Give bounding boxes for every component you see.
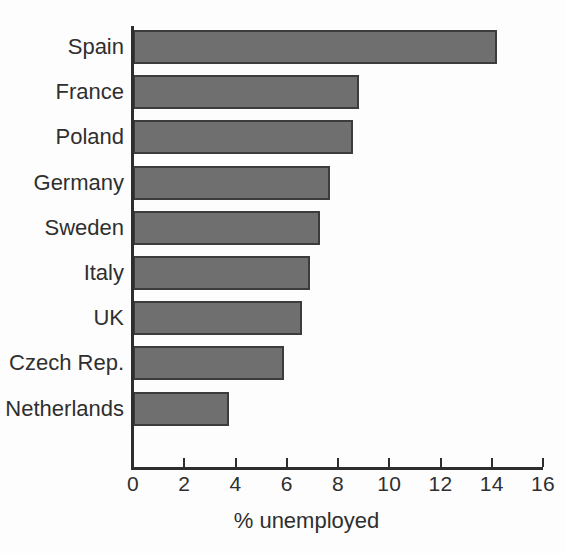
category-label: Czech Rep. xyxy=(0,348,124,378)
bar-row: Poland xyxy=(0,120,565,154)
bar-row: UK xyxy=(0,301,565,335)
x-tick-label: 12 xyxy=(421,472,461,496)
x-tick-label: 0 xyxy=(113,472,153,496)
x-tick xyxy=(491,458,493,467)
category-label: Italy xyxy=(0,258,124,288)
x-tick-label: 14 xyxy=(472,472,512,496)
bar xyxy=(133,301,302,335)
x-tick xyxy=(286,458,288,467)
x-tick xyxy=(542,458,544,467)
x-tick-label: 6 xyxy=(267,472,307,496)
x-tick xyxy=(440,458,442,467)
bar-row: Spain xyxy=(0,30,565,64)
x-axis-line xyxy=(131,467,543,470)
bar-row: Czech Rep. xyxy=(0,346,565,380)
y-axis-line xyxy=(131,26,134,470)
x-tick xyxy=(337,458,339,467)
bar xyxy=(133,256,310,290)
category-label: UK xyxy=(0,303,124,333)
x-tick-label: 8 xyxy=(318,472,358,496)
bar-chart: SpainFrancePolandGermanySwedenItalyUKCze… xyxy=(0,0,565,553)
category-label: Germany xyxy=(0,168,124,198)
bar-row: Italy xyxy=(0,256,565,290)
bar xyxy=(133,30,497,64)
bar xyxy=(133,211,320,245)
bar-row: Sweden xyxy=(0,211,565,245)
category-label: Netherlands xyxy=(0,394,124,424)
category-label: Poland xyxy=(0,122,124,152)
x-tick xyxy=(388,458,390,467)
bar xyxy=(133,392,229,426)
bars-layer: SpainFrancePolandGermanySwedenItalyUKCze… xyxy=(0,0,565,553)
bar-row: Germany xyxy=(0,166,565,200)
bar xyxy=(133,120,353,154)
x-tick-label: 4 xyxy=(216,472,256,496)
category-label: France xyxy=(0,77,124,107)
category-label: Spain xyxy=(0,32,124,62)
bar-row: France xyxy=(0,75,565,109)
bar xyxy=(133,166,330,200)
x-tick-label: 10 xyxy=(369,472,409,496)
x-tick xyxy=(235,458,237,467)
x-tick xyxy=(132,458,134,467)
bar xyxy=(133,75,359,109)
x-axis-title: % unemployed xyxy=(0,508,565,534)
bar-row: Netherlands xyxy=(0,392,565,426)
x-tick-label: 16 xyxy=(523,472,563,496)
x-tick xyxy=(183,458,185,467)
x-tick-label: 2 xyxy=(164,472,204,496)
category-label: Sweden xyxy=(0,213,124,243)
bar xyxy=(133,346,284,380)
